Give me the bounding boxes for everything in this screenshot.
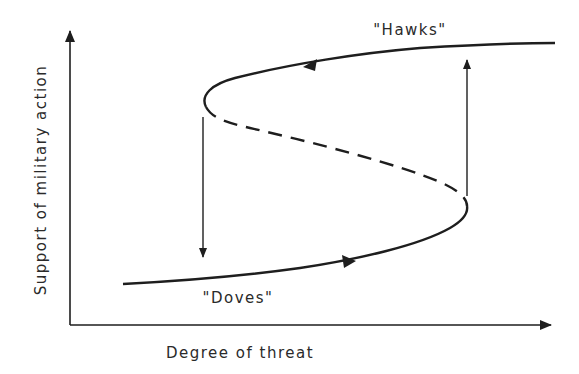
right-arrow-icon [342, 255, 356, 268]
y-axis-label: Support of military action [32, 65, 50, 295]
lower-branch-curve [123, 206, 467, 284]
middle-unstable-curve [206, 107, 467, 206]
hysteresis-diagram: "Hawks" "Doves" Degree of threat Support… [0, 0, 579, 374]
hawks-label: "Hawks" [373, 21, 447, 39]
upper-branch-curve [204, 43, 555, 107]
left-arrow-icon [303, 59, 317, 71]
x-axis-label: Degree of threat [166, 344, 314, 362]
doves-label: "Doves" [203, 289, 274, 307]
